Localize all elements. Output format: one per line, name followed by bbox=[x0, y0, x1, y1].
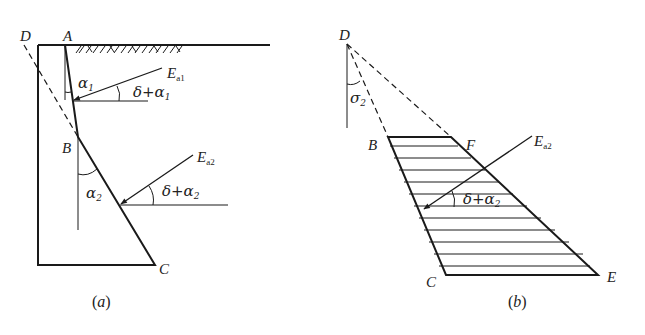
label-point-b: B bbox=[62, 140, 71, 156]
angle-arc-delta-alpha1 bbox=[117, 86, 120, 101]
label-alpha1: α1 bbox=[78, 74, 94, 93]
label-point-e: E bbox=[606, 269, 616, 285]
angle-arc-delta-alpha2 bbox=[149, 186, 154, 205]
angle-arc-sigma2 bbox=[347, 81, 360, 85]
dashed-line-d-b bbox=[24, 45, 78, 137]
label-delta-alpha2: δ+α2 bbox=[162, 182, 200, 201]
diagram-canvas: D A B C α1 α2 δ+α1 δ+α2 Ea1 Ea2 (a) bbox=[0, 0, 645, 335]
label-point-a: A bbox=[62, 28, 73, 44]
label-point-f: F bbox=[465, 137, 476, 153]
caption-b: (b) bbox=[508, 293, 527, 311]
figure-b: D B F C E σ2 δ+α2 Ea2 (b) bbox=[338, 27, 616, 311]
label-point-c: C bbox=[159, 261, 170, 277]
dashed-line-d-f bbox=[347, 44, 451, 137]
label-force-ea2: Ea2 bbox=[533, 133, 552, 151]
figure-a: D A B C α1 α2 δ+α1 δ+α2 Ea1 Ea2 (a) bbox=[19, 28, 270, 311]
angle-arc-alpha1 bbox=[65, 92, 71, 93]
label-alpha2: α2 bbox=[86, 184, 102, 203]
label-point-c: C bbox=[426, 274, 437, 290]
label-delta-alpha2: δ+α2 bbox=[463, 190, 501, 209]
label-sigma2: σ2 bbox=[350, 89, 366, 108]
angle-arc-delta-alpha2 bbox=[452, 191, 455, 207]
label-force-ea1: Ea1 bbox=[166, 65, 185, 83]
label-delta-alpha1: δ+α1 bbox=[133, 83, 170, 102]
angle-arc-alpha2 bbox=[78, 169, 97, 175]
label-force-ea2: Ea2 bbox=[196, 149, 215, 167]
label-point-b: B bbox=[368, 137, 377, 153]
caption-a: (a) bbox=[92, 293, 111, 311]
label-point-d: D bbox=[338, 27, 350, 43]
wall-outline bbox=[38, 45, 155, 265]
soil-hatch-icon bbox=[76, 46, 182, 53]
label-point-d: D bbox=[19, 28, 31, 44]
